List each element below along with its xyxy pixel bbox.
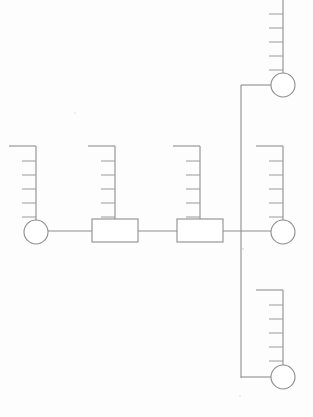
node-left[interactable] xyxy=(24,220,48,244)
node-right-top[interactable] xyxy=(271,73,295,97)
comb-left[interactable] xyxy=(9,146,36,220)
comb-right-bottom[interactable] xyxy=(256,290,283,365)
schematic-diagram xyxy=(0,0,313,417)
diagram-canvas xyxy=(0,0,313,417)
scan-speck-three xyxy=(74,112,75,113)
scan-speck-one xyxy=(242,248,244,250)
comb-right-top[interactable] xyxy=(269,0,283,73)
component-two[interactable] xyxy=(177,219,223,242)
comb-mid-two[interactable] xyxy=(173,146,200,219)
node-right-bottom[interactable] xyxy=(271,365,295,389)
component-one[interactable] xyxy=(92,219,138,242)
comb-right-middle[interactable] xyxy=(256,146,283,220)
scan-speck-two xyxy=(239,395,241,397)
comb-mid-one[interactable] xyxy=(88,146,115,219)
node-right-middle[interactable] xyxy=(271,220,295,244)
